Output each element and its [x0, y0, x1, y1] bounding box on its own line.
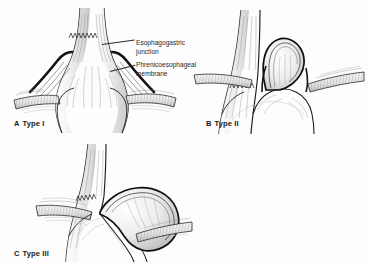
- caption-label-c: Type III: [23, 249, 49, 258]
- annotation-phrenicoesophageal-membrane: Phrenicoesophageal membrane: [136, 61, 196, 78]
- panel-type-ii: BType II: [192, 0, 370, 135]
- panel-b-illustration: [192, 0, 370, 135]
- paraesophageal-hernia-sac-b: [263, 38, 304, 90]
- caption-letter-a: A: [14, 119, 20, 128]
- annotation-ej-line2: junction: [136, 48, 185, 57]
- caption-letter-b: B: [206, 119, 212, 128]
- annotation-pm-line2: membrane: [136, 70, 196, 79]
- caption-letter-c: C: [14, 249, 20, 258]
- diaphragm-shadow-a: [20, 106, 172, 113]
- esophagus-body-c: [66, 144, 106, 262]
- panel-c-illustration: [30, 138, 250, 263]
- caption-panel-b: BType II: [206, 119, 239, 128]
- annotation-pm-line1: Phrenicoesophageal: [136, 61, 196, 70]
- annotation-esophagogastric-junction: Esophagogastric junction: [136, 39, 185, 56]
- esophagus-body-b: [219, 10, 260, 134]
- caption-label-b: Type II: [215, 119, 239, 128]
- diaphragm-left-a: [14, 89, 60, 109]
- caption-panel-a: AType I: [14, 119, 45, 128]
- caption-panel-c: CType III: [14, 249, 49, 258]
- hiatal-hernia-figure: AType I Esophagogastric junction Phrenic…: [0, 0, 370, 263]
- panel-type-iii: CType III: [30, 138, 250, 263]
- caption-label-a: Type I: [23, 119, 45, 128]
- diaphragm-left-b: [194, 74, 252, 88]
- diaphragm-right-a: [126, 90, 176, 107]
- annotation-ej-line1: Esophagogastric: [136, 39, 185, 48]
- diaphragm-right-b: [308, 66, 364, 92]
